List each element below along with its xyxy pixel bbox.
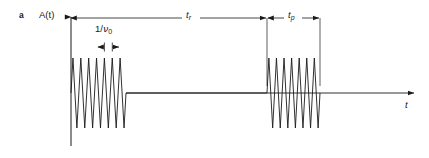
nu-subscript: 0 bbox=[108, 28, 112, 35]
y-axis-label-text: A(t) bbox=[39, 9, 54, 20]
tp-subscript: p bbox=[291, 14, 295, 21]
y-axis-label: A(t) bbox=[39, 10, 54, 20]
period-annotation-label: 1/ν0 bbox=[95, 24, 112, 35]
x-axis-label: t bbox=[405, 100, 408, 110]
figure-panel-a: a A(t) 1/ν0 tr tp t bbox=[0, 0, 429, 158]
wave-packet-1 bbox=[71, 58, 126, 128]
pulse-duration-label: tp bbox=[288, 10, 295, 21]
tr-subscript: r bbox=[189, 14, 191, 21]
wave-packet-2 bbox=[267, 58, 320, 128]
period-label-prefix: 1/ bbox=[95, 23, 103, 34]
panel-label: a bbox=[19, 11, 24, 20]
waveform-plot bbox=[0, 0, 429, 158]
repetition-time-label: tr bbox=[186, 10, 191, 21]
